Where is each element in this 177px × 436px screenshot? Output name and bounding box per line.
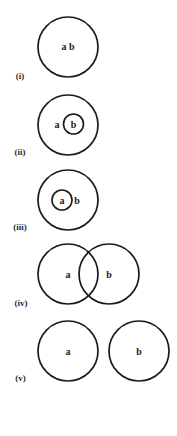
- set-label-b: b: [136, 346, 142, 357]
- set-relations-diagram: a b (i) a b (ii) a b (iii) a b (iv) a b …: [0, 0, 177, 436]
- panel-v: a b (v): [15, 321, 169, 383]
- case-label-ii: (ii): [15, 147, 26, 157]
- set-label-b: b: [74, 195, 80, 206]
- circle-a-outer: [38, 95, 98, 155]
- case-label-iii: (iii): [13, 222, 27, 232]
- panel-i: a b (i): [16, 17, 98, 81]
- set-label-b: b: [71, 119, 77, 130]
- set-label-a: a: [66, 269, 71, 280]
- set-label-a: a: [66, 346, 71, 357]
- case-label-iv: (iv): [15, 298, 28, 308]
- set-label-a: a: [60, 195, 65, 206]
- panel-iii: a b (iii): [13, 170, 98, 232]
- panel-ii: a b (ii): [15, 95, 99, 157]
- panel-iv: a b (iv): [15, 244, 140, 308]
- circle-b-outer: [38, 170, 98, 230]
- set-label-ab: a b: [61, 41, 75, 52]
- case-label-i: (i): [16, 71, 25, 81]
- case-label-v: (v): [15, 373, 26, 383]
- set-label-b: b: [106, 269, 112, 280]
- set-label-a: a: [55, 119, 60, 130]
